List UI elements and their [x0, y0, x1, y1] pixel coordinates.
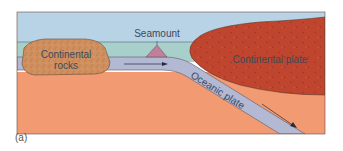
label-continental-rocks-1: Continental	[41, 49, 92, 60]
label-continental-plate: Continental plate	[232, 54, 307, 65]
label-continental-rocks-2: rocks	[54, 60, 78, 71]
label-seamount: Seamount	[134, 28, 180, 39]
figure-caption: (a)	[15, 132, 27, 143]
subduction-diagram: Seamount Continental rocks Continental p…	[0, 0, 343, 151]
